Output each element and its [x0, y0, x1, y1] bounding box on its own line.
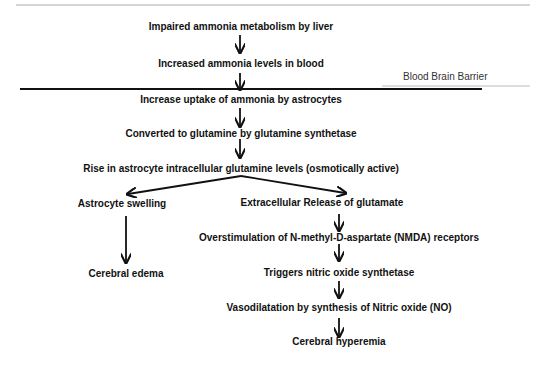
- node-increased-ammonia-blood: Increased ammonia levels in blood: [158, 58, 324, 70]
- node-glutamine-conversion: Converted to glutamine by glutamine synt…: [125, 128, 356, 140]
- node-glutamine-rise: Rise in astrocyte intracellular glutamin…: [83, 163, 399, 175]
- node-nmda-overstimulation: Overstimulation of N-methyl-D-aspartate …: [199, 232, 479, 244]
- node-vasodilatation: Vasodilatation by synthesis of Nitric ox…: [226, 302, 451, 314]
- node-cerebral-edema: Cerebral edema: [88, 268, 163, 280]
- node-glutamate-release: Extracellular Release of glutamate: [241, 197, 404, 209]
- node-cerebral-hyperemia: Cerebral hyperemia: [292, 336, 385, 348]
- node-astrocyte-swelling: Astrocyte swelling: [78, 198, 166, 210]
- node-nitric-oxide-synthetase: Triggers nitric oxide synthetase: [264, 267, 415, 279]
- node-astrocyte-uptake: Increase uptake of ammonia by astrocytes: [140, 94, 342, 106]
- blood-brain-barrier-label: Blood Brain Barrier: [403, 71, 487, 82]
- node-impaired-metabolism: Impaired ammonia metabolism by liver: [149, 21, 334, 33]
